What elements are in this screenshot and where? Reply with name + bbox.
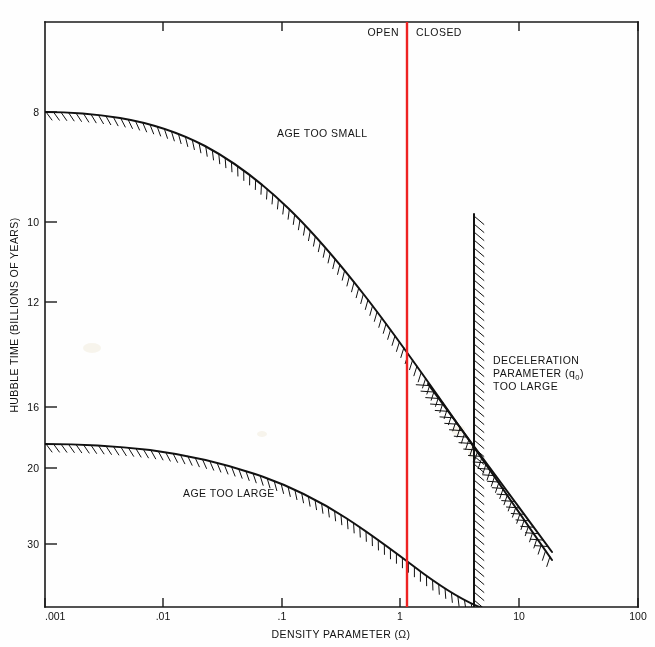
x-tick-label-3: 1 <box>397 610 403 622</box>
decel-line-2-prefix: PARAMETER (q <box>493 367 575 379</box>
y-tick-label-1: 10 <box>27 216 39 228</box>
cosmology-age-chart: .001 .01 .1 1 10 100 8 10 12 16 20 30 DE… <box>0 0 655 647</box>
x-tick-label-0: .001 <box>45 610 66 622</box>
decel-line-3: TOO LARGE <box>493 380 558 392</box>
x-tick-label-4: 10 <box>513 610 525 622</box>
y-tick-label-2: 12 <box>27 296 39 308</box>
x-axis-title: DENSITY PARAMETER (Ω) <box>272 628 411 640</box>
closed-label: CLOSED <box>416 26 462 38</box>
figure-root: .001 .01 .1 1 10 100 8 10 12 16 20 30 DE… <box>0 0 655 647</box>
age-too-large-label: AGE TOO LARGE <box>183 487 275 499</box>
x-tick-label-1: .01 <box>156 610 171 622</box>
y-tick-label-0: 8 <box>33 106 39 118</box>
open-label: OPEN <box>367 26 399 38</box>
age-too-small-label: AGE TOO SMALL <box>277 127 368 139</box>
y-tick-label-5: 30 <box>27 538 39 550</box>
y-axis-title: HUBBLE TIME (BILLIONS OF YEARS) <box>8 217 20 412</box>
y-tick-label-4: 20 <box>27 462 39 474</box>
canvas-background <box>0 0 655 647</box>
x-tick-label-5: 100 <box>629 610 647 622</box>
x-tick-label-2: .1 <box>278 610 287 622</box>
decel-line-2-suffix: ) <box>580 367 584 379</box>
y-tick-label-3: 16 <box>27 401 39 413</box>
decel-line-1: DECELERATION <box>493 354 579 366</box>
